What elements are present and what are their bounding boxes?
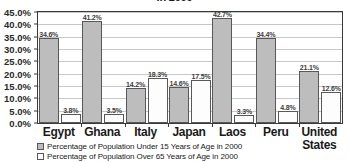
bar[interactable]: 34.6% (39, 38, 59, 123)
bar-group: 21.1%12.6% (299, 12, 342, 123)
bar-value-label: 12.6% (322, 85, 341, 92)
legend-item[interactable]: Percentage of Population Over 65 Years o… (37, 152, 349, 162)
bar-value-label: 41.2% (83, 14, 102, 21)
bar-value-label: 14.6% (170, 80, 189, 87)
bar[interactable]: 3.5% (104, 114, 124, 123)
bar-value-label: 3.3% (237, 108, 252, 115)
bar-value-label: 3.5% (107, 107, 122, 114)
y-axis-tick-label: 45.0% (0, 7, 36, 18)
bar[interactable]: 42.7% (212, 18, 232, 123)
chart-legend: Percentage of Population Under 15 Years … (37, 142, 349, 161)
chart-title: in 2000 (0, 0, 349, 3)
y-axis-tick-label: 5.0% (0, 105, 36, 116)
y-axis-tick-label: 0.0% (0, 118, 36, 129)
bar[interactable]: 4.8% (278, 111, 298, 123)
bar-chart: in 2000 0.0%5.0%10.0%15.0%20.0%25.0%30.0… (0, 0, 349, 161)
bar-value-label: 4.8% (280, 104, 295, 111)
x-axis-category-label: Egypt (37, 126, 80, 139)
bar[interactable]: 17.5% (191, 80, 211, 123)
bar[interactable]: 3.3% (234, 115, 254, 123)
bar-group: 41.2%3.5% (81, 12, 124, 123)
bar-value-label: 3.8% (63, 107, 78, 114)
bar-value-label: 34.6% (39, 31, 58, 38)
bar-group: 42.7%3.3% (212, 12, 255, 123)
bar[interactable]: 21.1% (299, 71, 319, 123)
legend-label: Percentage of Population Under 15 Years … (47, 142, 242, 151)
bar[interactable]: 14.6% (169, 87, 189, 123)
bar-group: 14.6%17.5% (168, 12, 211, 123)
plot-area: 0.0%5.0%10.0%15.0%20.0%25.0%30.0%35.0%40… (37, 11, 343, 124)
legend-label: Percentage of Population Over 65 Years o… (47, 152, 238, 161)
legend-color-swatch (37, 143, 44, 150)
bar-group: 34.4%4.8% (255, 12, 298, 123)
y-axis-tick-label: 15.0% (0, 81, 36, 92)
bar[interactable]: 34.4% (256, 38, 276, 123)
x-axis-category-label: Laos (211, 126, 254, 139)
x-axis-category-label: Italy (124, 126, 167, 139)
bar[interactable]: 12.6% (321, 92, 341, 123)
bar-value-label: 42.7% (213, 11, 232, 18)
bar-value-label: 14.2% (126, 81, 145, 88)
bar[interactable]: 41.2% (82, 21, 102, 123)
bar-value-label: 21.1% (300, 64, 319, 71)
bar[interactable]: 3.8% (61, 114, 81, 123)
bar[interactable]: 14.2% (126, 88, 146, 123)
bar-value-label: 17.5% (192, 73, 211, 80)
y-axis-tick-label: 20.0% (0, 68, 36, 79)
legend-color-swatch (37, 153, 44, 160)
bar-value-label: 18.3% (148, 71, 167, 78)
y-axis-tick-label: 35.0% (0, 31, 36, 42)
bar-group: 14.2%18.3% (125, 12, 168, 123)
y-axis-tick-label: 10.0% (0, 93, 36, 104)
x-axis-category-label: Japan (167, 126, 210, 139)
x-axis-category-label: Peru (254, 126, 297, 139)
y-axis-tick-label: 30.0% (0, 44, 36, 55)
y-axis-tick-label: 25.0% (0, 56, 36, 67)
bar-group: 34.6%3.8% (38, 12, 81, 123)
bar[interactable]: 18.3% (148, 78, 168, 123)
x-axis-category-label: Ghana (80, 126, 123, 139)
legend-item[interactable]: Percentage of Population Under 15 Years … (37, 142, 349, 152)
y-axis-tick-label: 40.0% (0, 19, 36, 30)
bar-value-label: 34.4% (256, 31, 275, 38)
